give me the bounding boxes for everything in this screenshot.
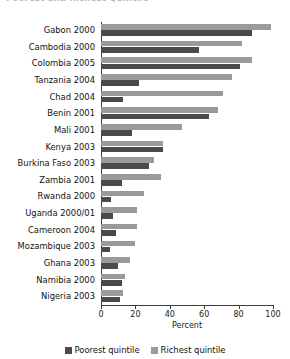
chart-row: Cambodia 2000 (0, 39, 290, 56)
legend-label-richest: Richest quintile (161, 345, 226, 355)
x-axis-tick-label: 60 (189, 310, 219, 319)
x-axis-tick (170, 305, 171, 309)
bar-richest-quintile (101, 257, 130, 263)
chart-row: Chad 2004 (0, 89, 290, 106)
bar-poorest-quintile (101, 197, 111, 203)
bar-richest-quintile (101, 74, 232, 80)
legend-swatch-richest-icon (151, 347, 158, 354)
chart-title-strip: Poorest and Richest Quintile (0, 0, 290, 9)
chart-row: Rwanda 2000 (0, 188, 290, 205)
chart-row: Nigeria 2003 (0, 288, 290, 305)
bar-poorest-quintile (101, 180, 122, 186)
bar-poorest-quintile (101, 163, 149, 169)
chart-row: Benin 2001 (0, 105, 290, 122)
bar-poorest-quintile (101, 147, 163, 153)
category-label: Namibia 2000 (0, 272, 95, 289)
x-axis-tick-label: 0 (86, 310, 116, 319)
category-label: Benin 2001 (0, 105, 95, 122)
bar-poorest-quintile (101, 130, 132, 136)
chart-row: Mozambique 2003 (0, 238, 290, 255)
category-label: Mozambique 2003 (0, 238, 95, 255)
bar-poorest-quintile (101, 64, 240, 70)
bar-poorest-quintile (101, 263, 118, 269)
category-label: Ghana 2003 (0, 255, 95, 272)
chart-row: Ghana 2003 (0, 255, 290, 272)
chart-row: Zambia 2001 (0, 172, 290, 189)
category-label: Mali 2001 (0, 122, 95, 139)
category-label: Cambodia 2000 (0, 39, 95, 56)
x-axis-title: Percent (101, 321, 273, 330)
bar-richest-quintile (101, 191, 144, 197)
bar-richest-quintile (101, 91, 223, 97)
chart-row: Uganda 2000/01 (0, 205, 290, 222)
bar-richest-quintile (101, 174, 161, 180)
bar-richest-quintile (101, 157, 154, 163)
bar-poorest-quintile (101, 230, 116, 236)
x-axis-tick (101, 305, 102, 309)
bar-richest-quintile (101, 41, 242, 47)
chart-row: Colombia 2005 (0, 55, 290, 72)
x-axis-tick-label: 80 (224, 310, 254, 319)
category-label: Gabon 2000 (0, 22, 95, 39)
x-axis-tick (239, 305, 240, 309)
category-label: Tanzania 2004 (0, 72, 95, 89)
bar-richest-quintile (101, 24, 271, 30)
category-label: Nigeria 2003 (0, 288, 95, 305)
chart-legend: Poorest quintile Richest quintile (0, 345, 290, 355)
bar-poorest-quintile (101, 114, 209, 120)
x-axis-tick (135, 305, 136, 309)
chart-row: Gabon 2000 (0, 22, 290, 39)
legend-item-richest: Richest quintile (151, 345, 226, 355)
bar-poorest-quintile (101, 47, 199, 53)
category-label: Chad 2004 (0, 89, 95, 106)
category-label: Uganda 2000/01 (0, 205, 95, 222)
bar-richest-quintile (101, 124, 182, 130)
legend-item-poorest: Poorest quintile (65, 345, 140, 355)
category-label: Colombia 2005 (0, 55, 95, 72)
bar-chart: Gabon 2000Cambodia 2000Colombia 2005Tanz… (0, 9, 290, 359)
chart-row: Burkina Faso 2003 (0, 155, 290, 172)
bar-poorest-quintile (101, 247, 110, 253)
x-axis-tick-label: 100 (258, 310, 288, 319)
x-axis-tick-label: 20 (120, 310, 150, 319)
x-axis-line (101, 305, 273, 306)
x-axis-tick (273, 305, 274, 309)
bar-richest-quintile (101, 107, 218, 113)
page-title: Poorest and Richest Quintile (6, 0, 149, 3)
bar-poorest-quintile (101, 213, 113, 219)
category-label: Kenya 2003 (0, 139, 95, 156)
legend-swatch-poorest-icon (65, 347, 72, 354)
x-axis-tick (204, 305, 205, 309)
chart-row: Kenya 2003 (0, 139, 290, 156)
bar-richest-quintile (101, 57, 252, 63)
bar-poorest-quintile (101, 30, 252, 36)
bar-richest-quintile (101, 241, 135, 247)
bar-richest-quintile (101, 141, 163, 147)
bar-poorest-quintile (101, 280, 122, 286)
bar-richest-quintile (101, 224, 137, 230)
chart-row: Mali 2001 (0, 122, 290, 139)
chart-row: Tanzania 2004 (0, 72, 290, 89)
bar-richest-quintile (101, 290, 123, 296)
legend-label-poorest: Poorest quintile (75, 345, 140, 355)
category-label: Rwanda 2000 (0, 188, 95, 205)
x-axis-tick-label: 40 (155, 310, 185, 319)
category-label: Cameroon 2004 (0, 222, 95, 239)
chart-row: Cameroon 2004 (0, 222, 290, 239)
chart-row: Namibia 2000 (0, 272, 290, 289)
bar-richest-quintile (101, 207, 137, 213)
bar-richest-quintile (101, 274, 125, 280)
category-label: Zambia 2001 (0, 172, 95, 189)
bar-poorest-quintile (101, 297, 120, 303)
bar-poorest-quintile (101, 80, 139, 86)
category-label: Burkina Faso 2003 (0, 155, 95, 172)
bar-poorest-quintile (101, 97, 123, 103)
